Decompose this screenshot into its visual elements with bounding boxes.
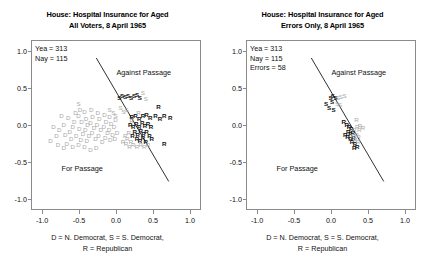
panel-title-line2: Errors Only, 8 April 1965 bbox=[215, 21, 430, 32]
y-tick-mark bbox=[243, 88, 247, 89]
region-label-against-passage: Against Passage bbox=[331, 68, 386, 77]
x-tick-mark bbox=[116, 210, 117, 214]
x-tick-label: 0.0 bbox=[316, 216, 346, 225]
panel-all-voters: House: Hospital Insurance for Aged All V… bbox=[0, 0, 215, 268]
region-label-for-passage: For Passage bbox=[277, 164, 318, 173]
legend-caption-line2: R = Republican bbox=[0, 244, 215, 255]
y-tick-label: 0.0 bbox=[1, 121, 27, 130]
y-tick-label: -0.5 bbox=[1, 158, 27, 167]
y-tick-mark bbox=[28, 162, 32, 163]
legend-caption-line2: R = Republican bbox=[215, 244, 430, 255]
y-tick-label: 1.0 bbox=[1, 47, 27, 56]
region-label-for-passage: For Passage bbox=[62, 164, 103, 173]
y-tick-mark bbox=[28, 125, 32, 126]
x-tick-label: 0.5 bbox=[138, 216, 168, 225]
cutting-line bbox=[32, 41, 201, 210]
x-tick-mark bbox=[42, 210, 43, 214]
x-tick-mark bbox=[153, 210, 154, 214]
region-label-against-passage: Against Passage bbox=[116, 68, 171, 77]
plot-area-all-voters: DDDDDDDDDDDDDDDDDDDDDDDDDDDDDDDDDDDDDDDD… bbox=[31, 40, 201, 210]
y-tick-mark bbox=[243, 162, 247, 163]
panel-title-line1: House: Hospital Insurance for Aged bbox=[215, 10, 430, 21]
y-tick-label: 0.5 bbox=[216, 84, 242, 93]
annotation-yea: Yea = 313 bbox=[250, 44, 282, 53]
x-tick-mark bbox=[368, 210, 369, 214]
y-tick-mark bbox=[243, 125, 247, 126]
y-tick-label: 1.0 bbox=[216, 47, 242, 56]
legend-caption-line1: D = N. Democrat, S = S. Democrat, bbox=[0, 233, 215, 244]
y-tick-label: 0.5 bbox=[1, 84, 27, 93]
x-tick-mark bbox=[331, 210, 332, 214]
x-tick-label: -0.5 bbox=[64, 216, 94, 225]
x-tick-label: 1.0 bbox=[175, 216, 205, 225]
x-tick-mark bbox=[405, 210, 406, 214]
y-tick-mark bbox=[243, 199, 247, 200]
x-tick-mark bbox=[257, 210, 258, 214]
y-tick-mark bbox=[28, 199, 32, 200]
x-tick-label: -1.0 bbox=[242, 216, 272, 225]
x-tick-label: 0.5 bbox=[353, 216, 383, 225]
y-tick-mark bbox=[28, 51, 32, 52]
annotation-nay: Nay = 115 bbox=[35, 54, 67, 63]
y-tick-mark bbox=[28, 88, 32, 89]
legend-caption-line1: D = N. Democrat, S = S. Democrat, bbox=[215, 233, 430, 244]
x-tick-mark bbox=[190, 210, 191, 214]
x-tick-label: -1.0 bbox=[27, 216, 57, 225]
panel-errors-only: House: Hospital Insurance for Aged Error… bbox=[215, 0, 430, 268]
y-tick-mark bbox=[243, 51, 247, 52]
annotation-nay: Nay = 115 bbox=[250, 54, 282, 63]
annotation-errors: Errors = 58 bbox=[250, 63, 286, 72]
y-tick-label: -0.5 bbox=[216, 158, 242, 167]
chart-figure: House: Hospital Insurance for Aged All V… bbox=[0, 0, 430, 268]
panel-title-line1: House: Hospital Insurance for Aged bbox=[0, 10, 215, 21]
x-tick-mark bbox=[79, 210, 80, 214]
panel-title-line2: All Voters, 8 April 1965 bbox=[0, 21, 215, 32]
annotation-yea: Yea = 313 bbox=[35, 44, 67, 53]
x-tick-label: 0.0 bbox=[101, 216, 131, 225]
x-tick-label: 1.0 bbox=[390, 216, 420, 225]
y-tick-label: -1.0 bbox=[216, 195, 242, 204]
y-tick-label: -1.0 bbox=[1, 195, 27, 204]
x-tick-mark bbox=[294, 210, 295, 214]
x-tick-label: -0.5 bbox=[279, 216, 309, 225]
y-tick-label: 0.0 bbox=[216, 121, 242, 130]
